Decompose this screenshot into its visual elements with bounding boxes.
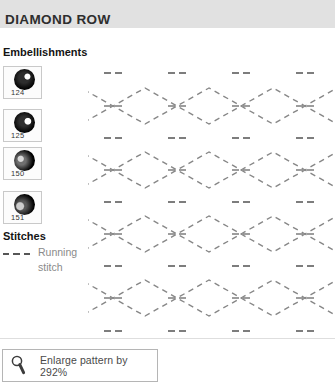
- running-stitch-dash-icon: [3, 253, 32, 255]
- bead-number: 151: [11, 213, 24, 222]
- magnifier-icon: [10, 354, 27, 377]
- bead-icon: [14, 112, 35, 133]
- bead-number: 125: [11, 131, 24, 140]
- bead-swatch-4: 151: [3, 191, 42, 224]
- bead-swatch-3: 150: [3, 147, 42, 180]
- bead-swatch-1: 124: [3, 66, 42, 99]
- pattern-book-page: DIAMOND ROW Embellishments 124 125 150 1…: [0, 0, 335, 387]
- enlarge-label: Enlarge pattern by 292%: [40, 354, 157, 378]
- bead-icon: [14, 150, 35, 171]
- stitch-label: Running stitch: [38, 245, 90, 275]
- footer-divider: [0, 338, 335, 339]
- title-bar: DIAMOND ROW: [0, 0, 335, 28]
- bead-swatch-2: 125: [3, 109, 42, 142]
- bead-icon: [14, 69, 35, 90]
- bead-number: 150: [11, 169, 24, 178]
- diamond-pattern-svg: [88, 52, 335, 342]
- page-title: DIAMOND ROW: [5, 12, 111, 27]
- stitches-heading: Stitches: [3, 230, 46, 242]
- pattern-diagram: [88, 52, 335, 342]
- enlarge-note: Enlarge pattern by 292%: [2, 349, 158, 382]
- bead-icon: [14, 194, 35, 215]
- bead-number: 124: [11, 88, 24, 97]
- embellishments-heading: Embellishments: [3, 46, 87, 58]
